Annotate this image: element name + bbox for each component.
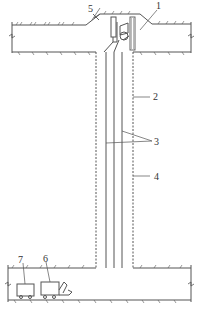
mine-car — [17, 284, 34, 299]
leader-line-7 — [23, 263, 25, 284]
grass-hatching-top — [16, 11, 184, 55]
break-mark-left-top — [9, 34, 15, 38]
leader-line-3 — [106, 131, 152, 143]
lower-level-ceiling — [8, 265, 191, 302]
label-2: 2 — [153, 91, 158, 102]
label-5: 5 — [88, 3, 93, 14]
label-4: 4 — [154, 171, 159, 182]
break-mark-left-bottom — [5, 282, 11, 286]
label-3: 3 — [154, 136, 159, 147]
shaft-diagram: 1 5 2 3 4 7 6 — [0, 0, 203, 312]
break-mark-right-top — [188, 34, 194, 38]
label-6: 6 — [43, 253, 48, 264]
drill-strings — [106, 52, 122, 268]
loader-machine — [41, 282, 72, 299]
upper-ground-surface — [12, 14, 191, 53]
grass-hatching-bottom — [12, 265, 182, 303]
label-7: 7 — [18, 254, 23, 265]
break-mark-right-bottom — [188, 282, 194, 286]
leader-line-1 — [140, 10, 157, 30]
drilling-rig — [104, 17, 135, 52]
leader-line-6 — [46, 262, 50, 282]
label-1: 1 — [156, 0, 161, 11]
